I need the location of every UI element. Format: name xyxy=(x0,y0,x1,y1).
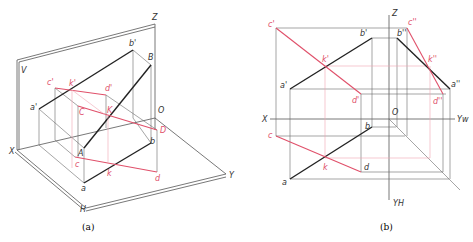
label-yh: YH xyxy=(393,199,404,208)
point-label: k'' xyxy=(428,55,437,64)
label-o: O xyxy=(158,106,164,115)
line-c-dprime-d-dprime xyxy=(407,28,443,94)
label-x: X xyxy=(261,115,268,124)
label-x: X xyxy=(8,147,15,156)
point-label: c' xyxy=(268,20,275,29)
label-y: Y xyxy=(229,171,235,180)
label-z: Z xyxy=(151,13,158,22)
point-label: C xyxy=(79,108,85,117)
projector-lines-b xyxy=(276,28,450,179)
point-label: d' xyxy=(105,84,112,93)
label-yw: Yw xyxy=(457,115,469,124)
point-label: b' xyxy=(360,29,367,38)
drawing-line xyxy=(133,118,151,143)
point-label: d xyxy=(364,163,370,172)
projector-lines-a xyxy=(39,50,157,183)
bisector xyxy=(389,119,460,190)
point-label: k xyxy=(107,169,112,178)
h-plane xyxy=(15,118,226,211)
line-ab xyxy=(39,50,151,183)
drawing-line xyxy=(39,109,84,148)
label-o: O xyxy=(392,108,398,117)
line-ab-h xyxy=(84,143,151,183)
point-label: c xyxy=(75,160,80,169)
point-label: A xyxy=(77,149,83,158)
point-label: c' xyxy=(47,78,54,87)
drawing-line xyxy=(106,95,157,130)
line-a-dprime-b-dprime xyxy=(397,38,450,89)
point-label: k' xyxy=(322,55,329,64)
figure-b: Z X O Yw YH c' b' k' a' d' b'' c'' k'' a… xyxy=(261,9,469,232)
point-label: a xyxy=(282,178,287,187)
point-label: b'' xyxy=(397,29,406,38)
line-cd-h xyxy=(75,157,157,172)
line-c-prime-d-prime xyxy=(276,28,361,94)
point-label: c xyxy=(268,131,273,140)
point-label: a'' xyxy=(451,80,460,89)
label-h: H xyxy=(80,205,86,214)
projection-diagram: Z V X Y O H a' b' B A b a c' k' d' C K D… xyxy=(0,0,473,242)
point-label: a xyxy=(81,184,86,193)
point-label: K xyxy=(107,106,113,115)
point-label: k' xyxy=(69,79,76,88)
label-z: Z xyxy=(391,9,398,18)
label-v: V xyxy=(21,66,27,75)
point-label: a' xyxy=(30,103,37,112)
point-label: d xyxy=(155,174,161,183)
point-label: D xyxy=(160,126,166,135)
point-label: b' xyxy=(129,39,136,48)
point-label: b xyxy=(150,137,155,146)
point-label: c'' xyxy=(408,18,417,27)
point-label: d'' xyxy=(433,97,442,106)
caption-a: (a) xyxy=(82,222,94,232)
point-label: d' xyxy=(352,96,359,105)
drawing-line xyxy=(17,150,86,208)
figure-a: Z V X Y O H a' b' B A b a c' k' d' C K D… xyxy=(8,13,235,232)
point-label: b xyxy=(365,122,370,131)
point-label: a' xyxy=(280,81,287,90)
point-label: B xyxy=(148,53,154,62)
caption-b: (b) xyxy=(380,222,393,232)
line-cd-b xyxy=(276,28,443,172)
line-a-prime-b-prime xyxy=(290,38,372,89)
point-label: k xyxy=(323,163,328,172)
drawing-line xyxy=(15,152,84,210)
